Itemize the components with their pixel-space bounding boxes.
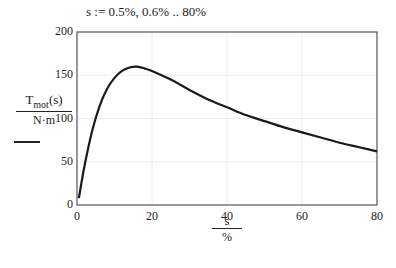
- x-axis-label: s %: [212, 214, 242, 245]
- plot-area: [0, 0, 396, 268]
- torque-curve: [79, 67, 377, 199]
- y-tick-label: 200: [43, 24, 73, 39]
- x-tick-label: 60: [287, 209, 317, 224]
- y-axis-label: Tmot(s) N·m: [16, 92, 72, 128]
- trace-legend-line: [14, 141, 40, 143]
- x-tick-label: 0: [62, 209, 92, 224]
- y-tick-label: 150: [43, 67, 73, 82]
- y-tick-label: 50: [43, 154, 73, 169]
- x-tick-label: 80: [362, 209, 392, 224]
- x-tick-label: 20: [137, 209, 167, 224]
